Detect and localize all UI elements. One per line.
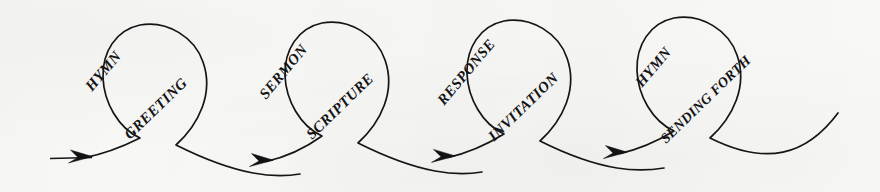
arrowhead-4 — [604, 146, 628, 159]
flow-path-graphic: HYMN GREETING SERMON SCRIPTURE RESPONSE … — [0, 0, 880, 192]
loop-3-lower-label: INVITATION — [484, 69, 562, 145]
loop-4-lower-label: SENDING FORTH — [657, 52, 754, 147]
diagram-canvas: HYMN GREETING SERMON SCRIPTURE RESPONSE … — [0, 0, 880, 192]
loop-1-upper-label: HYMN — [81, 47, 124, 94]
loop-2-upper-label: SERMON — [256, 41, 311, 102]
loop-2-lower-label: SCRIPTURE — [303, 70, 377, 142]
arrowhead-1 — [69, 150, 93, 163]
loop-1-lower-label: GREETING — [121, 75, 190, 143]
loop-3-upper-label: RESPONSE — [433, 36, 498, 109]
loop-4-upper-label: HYMN — [631, 43, 674, 90]
arrowhead-3 — [432, 149, 456, 162]
arrowhead-2 — [250, 154, 274, 167]
